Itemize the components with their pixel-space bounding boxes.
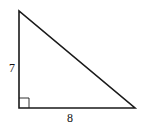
diagram-canvas: 7 8: [0, 0, 147, 130]
right-angle-marker: [19, 98, 29, 108]
vertical-leg-label: 7: [9, 61, 15, 75]
horizontal-leg-label: 8: [67, 111, 73, 125]
right-triangle: [19, 11, 135, 108]
triangle-figure: 7 8: [0, 0, 147, 130]
